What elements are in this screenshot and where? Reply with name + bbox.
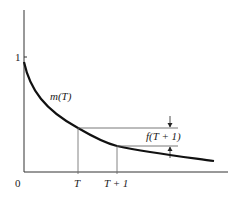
- origin-label: 0: [15, 177, 21, 189]
- curve-label: m(T): [50, 90, 72, 103]
- decay-diagram: 1 0 m(T) T T + 1 f(T + 1): [0, 0, 237, 199]
- gap-label: f(T + 1): [146, 130, 181, 143]
- x-label-T: T: [74, 177, 81, 189]
- x-label-T-plus-1: T + 1: [104, 177, 128, 189]
- arrowhead-top-icon: [168, 123, 173, 128]
- arrowhead-bottom-icon: [168, 147, 173, 152]
- y-tick-label: 1: [15, 51, 21, 63]
